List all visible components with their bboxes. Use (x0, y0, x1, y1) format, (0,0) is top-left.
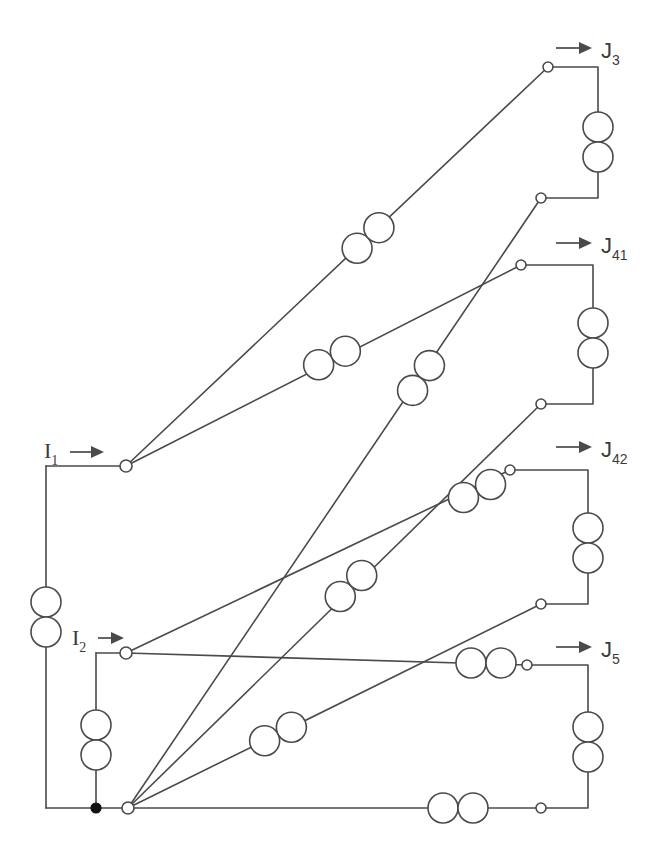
coupler-j5-loop-ring-a (573, 712, 603, 742)
arrow-j42-icon-head (579, 441, 592, 453)
output-port-label-j5: J5 (601, 637, 620, 667)
input-port-label-i1-base: I (44, 438, 51, 463)
coupler-j42-loop-ring-a (573, 513, 603, 543)
output-port-label-j5-subscript: 5 (612, 651, 620, 667)
coupler-layer (31, 112, 613, 823)
coupler-j5-loop-ring-b (573, 742, 603, 772)
coupler-n2-j42 (448, 470, 505, 513)
coupler-bottom (428, 793, 488, 823)
terminal-j42-bottom (536, 599, 546, 609)
arrow-j3-icon-head (579, 42, 592, 54)
coupler-j41-loop-ring-b (578, 338, 608, 368)
output-port-label-j41-base: J (601, 233, 612, 258)
output-port-label-j41: J41 (601, 233, 628, 263)
terminal-j41-top (516, 260, 526, 270)
wire-n3-j42b (128, 604, 541, 808)
input-port-label-i2: I2 (72, 625, 86, 655)
coupler-j41-loop-ring-a (578, 308, 608, 338)
coupler-i2-down-ring-b (81, 740, 111, 770)
coupler-i1-left (31, 587, 61, 647)
coupler-n1-j41 (304, 336, 361, 380)
coupler-j3-loop-ring-b (583, 142, 613, 172)
arrow-i1-icon (70, 446, 104, 458)
terminal-j3-top (543, 62, 553, 72)
arrow-j3-icon (556, 42, 592, 54)
coupler-j3-loop-ring-a (583, 112, 613, 142)
coupler-n3-j3b (398, 351, 445, 406)
coupler-j41-loop (578, 308, 608, 368)
coupler-j3-loop (583, 112, 613, 172)
terminal-j41-bottom (536, 399, 546, 409)
output-port-label-j41-subscript: 41 (612, 247, 628, 263)
coupler-n3-j41b (325, 561, 376, 612)
coupler-n1-j41-ring-a (304, 350, 334, 380)
coupler-n1-j3 (342, 213, 394, 264)
coupler-n2-j42-ring-a (448, 482, 478, 512)
terminal-node-i2 (120, 647, 132, 659)
terminal-node-i1 (120, 460, 132, 472)
wire-n1-j3 (126, 67, 548, 466)
coupler-i1-left-ring-a (31, 587, 61, 617)
input-port-label-i1-subscript: 1 (51, 453, 58, 468)
coupler-i1-left-ring-b (31, 617, 61, 647)
junction-dot-bottom (91, 803, 101, 813)
coupler-j5-loop (573, 712, 603, 772)
coupler-n2-j5 (456, 648, 516, 678)
schematic-diagram: I1I2J3J41J42J5 (0, 0, 656, 867)
output-port-label-j3-base: J (601, 38, 612, 63)
output-port-label-j5-base: J (601, 637, 612, 662)
arrow-j42-icon (556, 441, 592, 453)
coupler-j42-loop (573, 513, 603, 573)
coupler-n2-j5-ring-b (486, 648, 516, 678)
coupler-n3-j41b-ring-b (347, 561, 377, 591)
input-port-label-i2-subscript: 2 (79, 640, 86, 655)
terminal-node-bottom (122, 802, 134, 814)
wire-n3-j3b (128, 198, 541, 808)
input-port-label-i2-base: I (72, 625, 79, 650)
coupler-n3-j42b-ring-a (250, 726, 280, 756)
coupler-n1-j3-ring-b (364, 213, 394, 243)
coupler-i2-down (81, 710, 111, 770)
output-port-label-j3-subscript: 3 (612, 52, 620, 68)
terminal-j3-bottom (536, 193, 546, 203)
terminal-j42-top (505, 465, 515, 475)
arrow-j5-icon-head (579, 641, 592, 653)
coupler-j42-loop-ring-b (573, 543, 603, 573)
coupler-n3-j3b-ring-b (414, 351, 444, 381)
arrow-j41-icon (556, 237, 592, 249)
arrow-j41-icon-head (579, 237, 592, 249)
input-port-label-i1: I1 (44, 438, 58, 468)
output-port-label-j3: J3 (601, 38, 620, 68)
terminal-layer (91, 62, 553, 814)
coupler-i2-down-ring-a (81, 710, 111, 740)
arrow-i2-icon (98, 632, 124, 644)
coupler-n1-j41-ring-b (330, 336, 360, 366)
terminal-j5-bottom (536, 803, 546, 813)
coupler-bottom-ring-b (458, 793, 488, 823)
output-port-label-j42-base: J (601, 437, 612, 462)
coupler-bottom-ring-a (428, 793, 458, 823)
coupler-n3-j42b (250, 712, 307, 756)
coupler-n3-j42b-ring-b (276, 712, 306, 742)
output-port-label-j42-subscript: 42 (612, 451, 628, 467)
wire-layer (46, 67, 598, 808)
arrow-i1-icon-head (91, 446, 104, 458)
coupler-n2-j42-ring-b (476, 470, 506, 500)
terminal-j5-top (522, 660, 532, 670)
schematic-canvas: I1I2J3J41J42J5 (0, 0, 656, 867)
arrow-j5-icon (556, 641, 592, 653)
output-port-label-j42: J42 (601, 437, 628, 467)
arrow-i2-icon-head (111, 632, 124, 644)
coupler-n2-j5-ring-a (456, 648, 486, 678)
